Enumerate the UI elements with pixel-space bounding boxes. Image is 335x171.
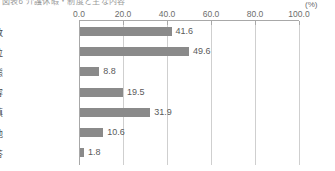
bar-value-label: 41.6: [176, 26, 194, 36]
bar-value-label: 1.8: [88, 147, 101, 157]
x-axis-unit-label: (%): [305, 0, 317, 9]
bar: [80, 47, 189, 56]
x-axis-labels: 0.020.040.060.080.0100.0: [0, 9, 335, 20]
bar-value-label: 49.6: [193, 46, 211, 56]
x-axis-tick-label: 60.0: [203, 9, 220, 19]
x-axis-line: [79, 20, 299, 21]
chart-row: 取得日数41.6: [79, 22, 299, 42]
category-label: 対象家族内容: [0, 83, 3, 103]
bar: [80, 128, 103, 137]
chart-row: 取得単位49.6: [79, 42, 299, 62]
chart-figure: 図表6 介護休暇・制度と主な内容 0.020.040.060.080.0100.…: [0, 0, 335, 171]
bar: [80, 148, 84, 157]
plot-area: 取得日数41.6取得単位49.6要介護の状態8.8対象家族内容19.5賃金補填3…: [79, 20, 299, 165]
category-label: 取得日数: [0, 22, 3, 42]
gridline: [299, 25, 300, 165]
x-axis-tick-label: 80.0: [247, 9, 264, 19]
bar-value-label: 31.9: [154, 107, 172, 117]
category-label: 要介護の状態: [0, 62, 3, 82]
bar: [80, 67, 99, 76]
chart-row: 対象家族内容19.5: [79, 83, 299, 103]
bar-value-label: 19.5: [127, 87, 145, 97]
chart-title: 図表6 介護休暇・制度と主な内容: [2, 0, 125, 6]
chart-row: 要介護の状態8.8: [79, 62, 299, 82]
category-label: 賃金補填: [0, 103, 3, 123]
category-label: 取得単位: [0, 42, 3, 62]
x-axis-tick-label: 20.0: [115, 9, 132, 19]
chart-row: 無回答1.8: [79, 143, 299, 163]
bar: [80, 27, 172, 36]
bar: [80, 108, 150, 117]
x-axis-tick-label: 100.0: [288, 9, 309, 19]
chart-row: その他10.6: [79, 123, 299, 143]
chart-row: 賃金補填31.9: [79, 103, 299, 123]
category-label: 無回答: [0, 143, 3, 163]
x-axis-tick-label: 0.0: [73, 9, 85, 19]
category-label: その他: [0, 123, 3, 143]
x-axis-tick-label: 40.0: [159, 9, 176, 19]
bar: [80, 88, 123, 97]
bar-value-label: 8.8: [103, 66, 116, 76]
bar-value-label: 10.6: [107, 127, 125, 137]
